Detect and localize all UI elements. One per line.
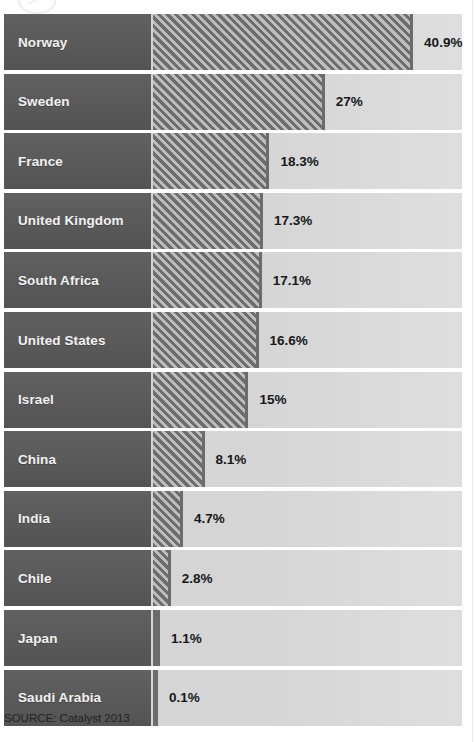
value-bar bbox=[153, 193, 263, 249]
bar-row-sweden: Sweden 27% bbox=[4, 74, 462, 130]
category-label: India bbox=[18, 511, 50, 526]
category-label: Saudi Arabia bbox=[18, 690, 101, 705]
value-label: 0.1% bbox=[169, 670, 200, 726]
bar-row-chile: Chile 2.8% bbox=[4, 550, 462, 606]
category-label-block: France bbox=[4, 133, 151, 189]
value-label: 2.8% bbox=[182, 550, 213, 606]
category-label-block: United States bbox=[4, 312, 151, 368]
value-label: 16.6% bbox=[270, 312, 308, 368]
page-seam-line bbox=[472, 0, 473, 742]
category-label: Israel bbox=[18, 392, 54, 407]
category-label: United Kingdom bbox=[18, 213, 124, 228]
category-label: China bbox=[18, 452, 56, 467]
category-label: Chile bbox=[18, 571, 52, 586]
value-bar bbox=[153, 74, 325, 130]
value-label: 8.1% bbox=[216, 431, 247, 487]
category-label-block: South Africa bbox=[4, 252, 151, 308]
bar-row-norway: Norway 40.9% bbox=[4, 14, 462, 70]
category-label-block: Japan bbox=[4, 610, 151, 666]
value-label: 27% bbox=[336, 74, 363, 130]
value-label: 17.1% bbox=[273, 252, 311, 308]
category-label-block: China bbox=[4, 431, 151, 487]
value-bar bbox=[153, 431, 205, 487]
horizontal-bar-chart: Norway 40.9% Sweden 27% France 18.3% Uni… bbox=[0, 0, 475, 742]
bar-row-india: India 4.7% bbox=[4, 491, 462, 547]
source-note: SOURCE: Catalyst 2013 bbox=[4, 712, 130, 724]
value-bar bbox=[153, 610, 160, 666]
category-label-block: Chile bbox=[4, 550, 151, 606]
scan-artifact bbox=[18, 0, 56, 14]
value-bar bbox=[153, 550, 171, 606]
category-label: Norway bbox=[18, 35, 67, 50]
value-bar bbox=[153, 312, 259, 368]
category-label: Japan bbox=[18, 631, 58, 646]
bar-row-south-africa: South Africa 17.1% bbox=[4, 252, 462, 308]
value-bar bbox=[153, 372, 248, 428]
bar-row-france: France 18.3% bbox=[4, 133, 462, 189]
value-bar bbox=[153, 133, 269, 189]
bar-row-united-states: United States 16.6% bbox=[4, 312, 462, 368]
value-bar bbox=[153, 252, 262, 308]
value-label: 40.9% bbox=[424, 14, 462, 70]
value-label: 4.7% bbox=[194, 491, 225, 547]
value-label: 1.1% bbox=[171, 610, 202, 666]
bar-row-israel: Israel 15% bbox=[4, 372, 462, 428]
category-label: South Africa bbox=[18, 273, 99, 288]
bar-row-china: China 8.1% bbox=[4, 431, 462, 487]
value-bar bbox=[153, 14, 413, 70]
value-label: 18.3% bbox=[280, 133, 318, 189]
value-bar bbox=[153, 670, 158, 726]
category-label-block: United Kingdom bbox=[4, 193, 151, 249]
category-label: Sweden bbox=[18, 94, 70, 109]
bar-row-united-kingdom: United Kingdom 17.3% bbox=[4, 193, 462, 249]
category-label-block: India bbox=[4, 491, 151, 547]
value-label: 17.3% bbox=[274, 193, 312, 249]
value-bar bbox=[153, 491, 183, 547]
bar-row-japan: Japan 1.1% bbox=[4, 610, 462, 666]
category-label-block: Sweden bbox=[4, 74, 151, 130]
category-label-block: Israel bbox=[4, 372, 151, 428]
category-label: United States bbox=[18, 333, 106, 348]
category-label-block: Norway bbox=[4, 14, 151, 70]
category-label: France bbox=[18, 154, 63, 169]
value-label: 15% bbox=[259, 372, 286, 428]
